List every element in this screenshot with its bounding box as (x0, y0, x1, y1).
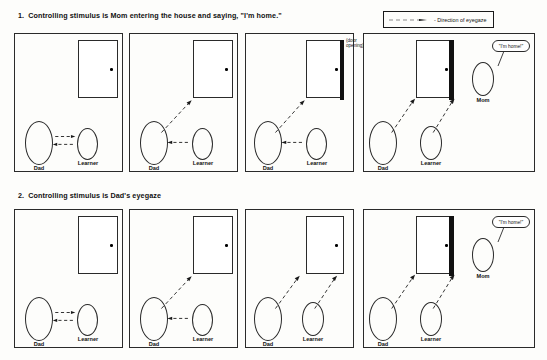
door-knob-icon (445, 244, 448, 247)
person-learner (77, 304, 98, 336)
door-knob-icon (225, 244, 228, 247)
person-learner (302, 302, 324, 336)
section-1-text: Controlling stimulus is Mom entering the… (28, 11, 282, 20)
door (416, 216, 454, 274)
person-dad-label: Dad (25, 341, 53, 347)
person-dad (254, 121, 282, 165)
door-opening-bar (340, 40, 345, 100)
section-1-number: 1. (18, 11, 24, 20)
dashed-arrow-icon (389, 19, 430, 21)
person-learner-label: Learner (412, 160, 450, 166)
panel-1-1: Dad Learner (14, 33, 123, 172)
door-knob-icon (225, 68, 228, 71)
door-knob-icon (110, 244, 113, 247)
speech-bubble-text: "I'm home!" (499, 220, 523, 225)
section-1-title: 1.Controlling stimulus is Mom entering t… (18, 11, 282, 20)
door (78, 40, 118, 98)
panel-2-2: Dad Learner (129, 209, 238, 348)
person-dad-label: Dad (369, 165, 397, 171)
section-2-text: Controlling stimulus is Dad's eyegaze (28, 191, 161, 200)
person-learner (420, 302, 442, 336)
person-learner-label: Learner (184, 336, 222, 342)
person-dad-label: Dad (254, 341, 282, 347)
door-knob-icon (445, 68, 448, 71)
person-dad-label: Dad (140, 341, 168, 347)
person-mom (472, 62, 494, 96)
person-learner (420, 126, 442, 160)
person-dad-label: Dad (140, 165, 168, 171)
speech-bubble-tail (492, 51, 510, 67)
person-learner-label: Learner (69, 336, 107, 342)
door (193, 40, 233, 98)
door-opening-line-2: opening) (346, 43, 364, 48)
panel-1-4: Mom "I'm home!" Dad Learner (363, 33, 535, 172)
person-mom-label: Mom (469, 273, 497, 279)
door-opening-bar (449, 40, 454, 100)
person-dad (369, 297, 397, 341)
person-mom-label: Mom (469, 97, 497, 103)
person-dad (25, 121, 53, 165)
person-learner-label: Learner (69, 160, 107, 166)
person-learner (192, 304, 213, 336)
door-knob-icon (335, 68, 338, 71)
figure-page: 1.Controlling stimulus is Mom entering t… (0, 0, 547, 360)
person-learner (192, 128, 213, 160)
door-opening-label: (door opening) (346, 38, 364, 49)
speech-bubble-text: "I'm home!" (499, 44, 523, 49)
panel-1-3: (door opening) Dad Learner (245, 33, 354, 172)
person-learner (306, 128, 327, 160)
person-dad (369, 121, 397, 165)
person-dad (140, 121, 168, 165)
person-dad-label: Dad (369, 341, 397, 347)
speech-bubble-tail (492, 227, 510, 243)
person-mom (472, 238, 494, 272)
section-2-number: 2. (18, 191, 24, 200)
panel-2-4: Mom "I'm home!" Dad Learner (363, 209, 535, 348)
door-knob-icon (335, 244, 338, 247)
person-learner-label: Learner (412, 336, 450, 342)
door-knob-icon (110, 68, 113, 71)
door-opening-line-1: (door (346, 38, 357, 43)
door (306, 40, 344, 98)
door (416, 40, 454, 98)
legend-label: - Direction of eyegaze (434, 17, 486, 23)
legend-box: - Direction of eyegaze (383, 11, 494, 28)
person-dad (254, 297, 282, 341)
door (78, 216, 118, 274)
person-dad-label: Dad (254, 165, 282, 171)
panel-2-1: Dad Learner (14, 209, 123, 348)
person-learner (77, 128, 98, 160)
person-dad (25, 297, 53, 341)
section-2-title: 2.Controlling stimulus is Dad's eyegaze (18, 191, 161, 200)
person-learner-label: Learner (294, 336, 332, 342)
door-opening-bar (449, 216, 454, 276)
panel-1-2: Dad Learner (129, 33, 238, 172)
person-learner-label: Learner (184, 160, 222, 166)
panel-2-3: Dad Learner (245, 209, 354, 348)
person-dad (140, 297, 168, 341)
door (306, 216, 344, 274)
person-learner-label: Learner (298, 160, 336, 166)
person-dad-label: Dad (25, 165, 53, 171)
door (193, 216, 233, 274)
